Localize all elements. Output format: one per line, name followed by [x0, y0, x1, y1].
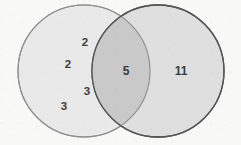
venn-value-left-2-lower: 2 — [65, 59, 71, 71]
venn-diagram: 2233511 — [0, 0, 241, 145]
venn-value-left-2-upper: 2 — [82, 37, 88, 49]
venn-value-right-11: 11 — [175, 65, 188, 77]
venn-value-left-3-lower: 3 — [61, 101, 67, 113]
venn-value-intersection-5: 5 — [123, 65, 130, 77]
venn-value-left-3-upper: 3 — [84, 86, 90, 98]
venn-shapes — [0, 0, 241, 145]
